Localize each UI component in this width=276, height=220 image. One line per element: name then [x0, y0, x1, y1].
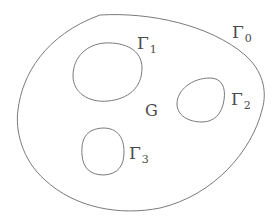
label-gamma3-symbol: Γ: [129, 143, 141, 163]
multiply-connected-domain-diagram: Γ0 Γ1 Γ2 Γ3 G: [0, 0, 276, 220]
inner-boundary-gamma3: [82, 128, 124, 175]
label-gamma0: Γ0: [232, 24, 252, 41]
label-gamma1: Γ1: [137, 35, 157, 52]
label-gamma1-subscript: 1: [150, 43, 157, 56]
label-gamma2-symbol: Γ: [231, 89, 243, 109]
label-gamma3: Γ3: [129, 145, 149, 162]
label-gamma0-subscript: 0: [245, 32, 252, 45]
label-gamma3-subscript: 3: [142, 153, 149, 166]
label-gamma1-symbol: Γ: [137, 33, 149, 53]
inner-boundary-gamma1: [73, 43, 142, 101]
label-gamma0-symbol: Γ: [232, 22, 244, 42]
label-gamma2: Γ2: [231, 91, 251, 108]
inner-boundary-gamma2: [177, 78, 224, 122]
label-region-g: G: [145, 103, 158, 119]
label-gamma2-subscript: 2: [244, 99, 251, 112]
